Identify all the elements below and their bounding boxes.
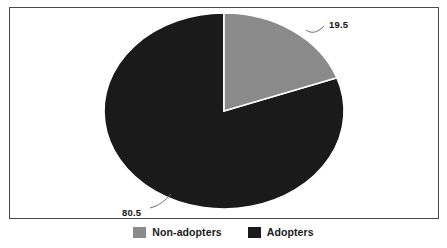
leader-line-adopters bbox=[306, 26, 324, 32]
plot-frame: 19.5 80.5 bbox=[9, 7, 439, 219]
legend-swatch-non-adopters bbox=[133, 227, 146, 238]
legend-label-non-adopters: Non-adopters bbox=[152, 226, 221, 238]
pie-chart-svg bbox=[10, 8, 440, 220]
legend-label-adopters: Adopters bbox=[267, 226, 314, 238]
legend-item-adopters[interactable]: Adopters bbox=[248, 226, 314, 238]
pie-label-non-adopters: 80.5 bbox=[122, 207, 141, 218]
legend-item-non-adopters[interactable]: Non-adopters bbox=[133, 226, 221, 238]
legend-swatch-adopters bbox=[248, 227, 261, 238]
pie-label-adopters: 19.5 bbox=[329, 19, 348, 30]
chart-legend: Non-adopters Adopters bbox=[0, 226, 447, 238]
pie-chart-figure: 19.5 80.5 Non-adopters Adopters bbox=[0, 0, 447, 248]
